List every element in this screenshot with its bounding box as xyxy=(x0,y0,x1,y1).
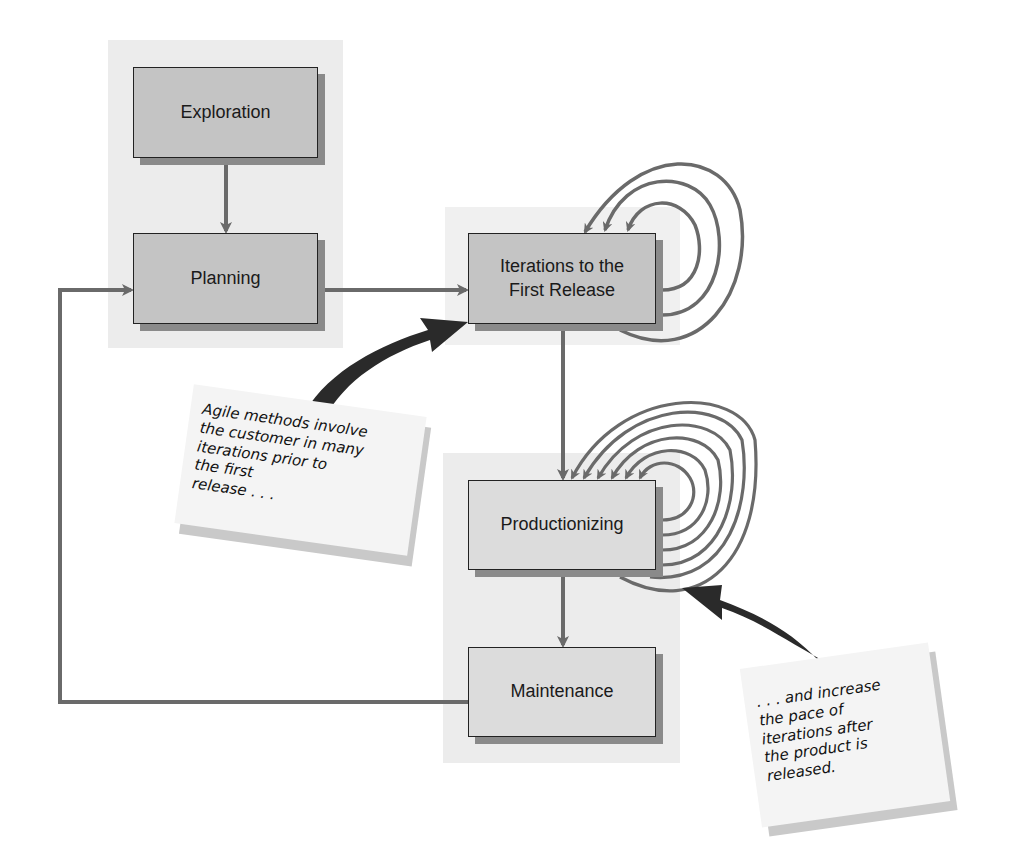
iterations-label-line1: Iterations to the xyxy=(500,255,624,278)
note-increase-pace: . . . and increase the pace of iteration… xyxy=(740,643,950,828)
productionizing-label: Productionizing xyxy=(500,513,623,536)
productionizing-node: Productionizing xyxy=(468,480,656,570)
maintenance-label: Maintenance xyxy=(510,680,613,703)
iterations-node: Iterations to the First Release xyxy=(468,233,656,324)
maintenance-node: Maintenance xyxy=(468,647,656,737)
planning-label: Planning xyxy=(190,267,260,290)
exploration-label: Exploration xyxy=(180,101,270,124)
iterations-label-line2: First Release xyxy=(509,279,615,302)
exploration-node: Exploration xyxy=(133,67,318,158)
callout-arrow-productionizing xyxy=(682,585,836,668)
planning-node: Planning xyxy=(133,233,318,324)
